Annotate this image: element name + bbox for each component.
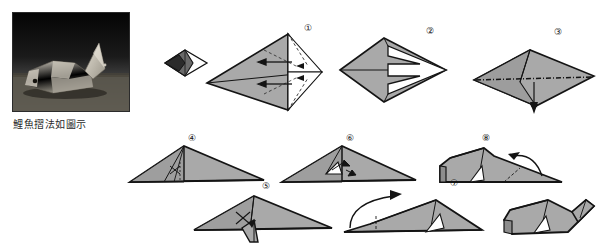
step-7-fold-over: ⑦ (340, 188, 490, 240)
photo-block (12, 12, 130, 112)
step-number-8: ⑧ (482, 134, 490, 143)
origami-instruction-page: 鯉魚摺法如圖示 (0, 0, 605, 247)
step-number-1: ① (304, 24, 312, 33)
step-number-7: ⑦ (450, 179, 458, 188)
step-3-flatten-diamond: ③ (470, 32, 600, 118)
finished-carp-photograph (12, 12, 130, 112)
step-4-wide-triangle: ④ (128, 140, 268, 188)
photo-caption: 鯉魚摺法如圖示 (13, 119, 87, 131)
step-number-5: ⑤ (262, 182, 270, 191)
finished-carp-figure (500, 196, 600, 246)
step-number-4: ④ (188, 134, 196, 143)
step-number-6: ⑥ (346, 134, 354, 143)
step-number-2: ② (426, 27, 434, 36)
step-5-tail-pulled-down: ⑤ (192, 190, 337, 246)
step-6-inside-reverse: ⑥ (280, 140, 420, 188)
step-2-arrow-flaps: ② (338, 30, 454, 110)
step-number-3: ③ (554, 28, 562, 37)
step-1-kite-base: ① (204, 26, 324, 118)
